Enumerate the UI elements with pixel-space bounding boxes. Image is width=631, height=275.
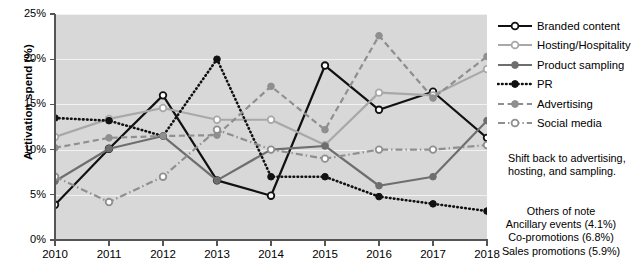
- data-point: [106, 145, 113, 152]
- y-tick-mark: [50, 149, 55, 150]
- data-point: [484, 117, 487, 124]
- annotation-shift: Shift back to advertising, hosting, and …: [508, 152, 630, 178]
- x-tick-label: 2011: [86, 248, 132, 260]
- legend-label: Product sampling: [533, 59, 624, 71]
- legend-item-product-sampling[interactable]: Product sampling: [497, 55, 630, 75]
- data-point: [376, 193, 383, 200]
- x-tick-mark: [486, 241, 487, 246]
- x-tick-mark: [54, 241, 55, 246]
- data-point: [106, 117, 113, 124]
- legend-item-branded-content[interactable]: Branded content: [497, 16, 630, 36]
- data-point: [106, 199, 113, 206]
- y-tick-mark: [50, 104, 55, 105]
- data-point: [214, 56, 221, 63]
- series-layer: [55, 14, 487, 240]
- legend-label: Social media: [533, 117, 602, 129]
- data-point: [268, 116, 275, 123]
- data-point: [376, 89, 383, 96]
- legend-label: Hosting/Hospitality: [533, 39, 631, 51]
- x-tick-label: 2015: [302, 248, 348, 260]
- data-point: [322, 143, 329, 150]
- data-point: [322, 173, 329, 180]
- data-point: [322, 62, 329, 69]
- x-tick-label: 2010: [32, 248, 78, 260]
- annotation-others: Others of noteAncillary events (4.1%)Co-…: [492, 205, 630, 258]
- x-tick-label: 2014: [248, 248, 294, 260]
- data-point: [376, 107, 383, 114]
- series-line: [55, 130, 487, 202]
- data-point: [106, 135, 113, 142]
- data-point: [322, 155, 329, 162]
- data-point: [376, 146, 383, 153]
- data-point: [268, 192, 275, 199]
- legend-item-social-media[interactable]: Social media: [497, 114, 630, 134]
- series-line: [55, 59, 487, 211]
- x-tick-mark: [432, 241, 433, 246]
- x-tick-label: 2016: [356, 248, 402, 260]
- x-tick-mark: [270, 241, 271, 246]
- x-tick-mark: [378, 241, 379, 246]
- x-tick-label: 2012: [140, 248, 186, 260]
- series-line: [55, 69, 487, 145]
- data-point: [430, 95, 437, 102]
- legend-item-hosting-hospitality[interactable]: Hosting/Hospitality: [497, 36, 630, 56]
- legend-label: Branded content: [533, 20, 620, 32]
- x-tick-mark: [216, 241, 217, 246]
- data-point: [376, 32, 383, 39]
- plot-area: [55, 14, 487, 240]
- legend-label: PR: [533, 78, 553, 90]
- data-point: [484, 66, 487, 73]
- data-point: [268, 83, 275, 90]
- data-point: [430, 201, 437, 208]
- others-of-note-item: Co-promotions (6.8%): [492, 231, 630, 244]
- y-tick-label: 20%: [0, 52, 46, 64]
- data-point: [160, 173, 167, 180]
- series-advertising: [55, 32, 487, 151]
- x-tick-label: 2017: [410, 248, 456, 260]
- data-point: [214, 126, 221, 133]
- legend-swatch: [497, 97, 533, 111]
- series-line: [55, 36, 487, 148]
- data-point: [268, 146, 275, 153]
- legend-swatch: [497, 58, 533, 72]
- others-of-note-item: Ancillary events (4.1%): [492, 218, 630, 231]
- series-pr: [55, 56, 487, 214]
- series-hosting-hospitality: [55, 66, 487, 149]
- data-point: [160, 133, 167, 140]
- legend-item-pr[interactable]: PR: [497, 75, 630, 95]
- data-point: [160, 92, 167, 99]
- legend: Branded contentHosting/HospitalityProduc…: [497, 16, 630, 133]
- legend-swatch: [497, 77, 533, 91]
- data-point: [376, 182, 383, 189]
- x-tick-label: 2013: [194, 248, 240, 260]
- others-of-note-title: Others of note: [492, 205, 630, 218]
- x-tick-mark: [162, 241, 163, 246]
- y-axis-line: [54, 14, 56, 241]
- data-point: [268, 173, 275, 180]
- y-tick-label: 25%: [0, 7, 46, 19]
- data-point: [214, 177, 221, 184]
- data-point: [430, 146, 437, 153]
- data-point: [160, 105, 167, 112]
- data-point: [484, 142, 487, 149]
- y-tick-label: 0%: [0, 233, 46, 245]
- y-tick-label: 15%: [0, 97, 46, 109]
- x-tick-mark: [108, 241, 109, 246]
- y-tick-mark: [50, 13, 55, 14]
- legend-swatch: [497, 116, 533, 130]
- data-point: [484, 135, 487, 142]
- y-tick-label: 5%: [0, 188, 46, 200]
- data-point: [430, 173, 437, 180]
- data-point: [484, 53, 487, 60]
- data-point: [214, 116, 221, 123]
- y-tick-mark: [50, 194, 55, 195]
- legend-item-advertising[interactable]: Advertising: [497, 94, 630, 114]
- legend-label: Advertising: [533, 98, 593, 110]
- legend-swatch: [497, 19, 533, 33]
- data-point: [484, 208, 487, 215]
- y-tick-label: 10%: [0, 143, 46, 155]
- x-tick-mark: [324, 241, 325, 246]
- others-of-note-item: Sales promotions (5.9%): [492, 245, 630, 258]
- data-point: [322, 126, 329, 133]
